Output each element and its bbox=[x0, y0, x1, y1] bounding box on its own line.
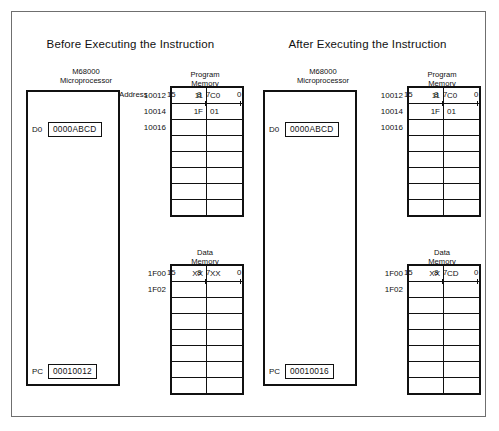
memory-cell-low-byte bbox=[444, 184, 479, 199]
memory-cell-high-byte bbox=[409, 314, 444, 329]
memory-cell-low-byte bbox=[444, 282, 479, 297]
memory-cell-high-byte bbox=[172, 168, 207, 183]
memory-cell-low-byte bbox=[444, 378, 479, 393]
memory-cell-high-byte bbox=[172, 314, 207, 329]
memory-cell-low-byte bbox=[207, 152, 242, 167]
memory-cell-low-byte bbox=[444, 120, 479, 135]
memory-cell-high-byte bbox=[409, 184, 444, 199]
memory-cell-low-byte: 01 bbox=[207, 104, 242, 119]
memory-row: 1F00XXCD bbox=[409, 266, 479, 282]
memory-cell-high-byte bbox=[172, 200, 207, 215]
memory-row: 100141F01 bbox=[409, 104, 479, 120]
memory-cell-high-byte bbox=[172, 152, 207, 167]
memory-cell-low-byte bbox=[207, 330, 242, 345]
cpu-label-before: M68000 Microprocessor bbox=[26, 67, 146, 86]
memory-row-address: 10016 bbox=[381, 120, 403, 135]
memory-cell-high-byte bbox=[409, 346, 444, 361]
panel-title-after: After Executing the Instruction bbox=[249, 38, 486, 50]
register-d0-value: 0000ABCD bbox=[285, 122, 339, 137]
memory-cell-high-byte bbox=[409, 282, 444, 297]
memory-cell-high-byte bbox=[409, 330, 444, 345]
memory-cell-low-byte bbox=[444, 200, 479, 215]
cpu-label-line2: Microprocessor bbox=[263, 76, 383, 85]
memory-cell-low-byte: C0 bbox=[207, 88, 242, 103]
memory-cell-low-byte: C0 bbox=[444, 88, 479, 103]
register-pc-name: PC bbox=[269, 367, 285, 376]
figure-frame: Before Executing the Instruction M68000 … bbox=[11, 11, 486, 417]
memory-row-address: 1F00 bbox=[148, 266, 166, 281]
memory-cell-low-byte bbox=[207, 378, 242, 393]
memory-row: 1001211C0 bbox=[409, 88, 479, 104]
memory-cell-low-byte bbox=[444, 362, 479, 377]
memory-cell-low-byte bbox=[207, 314, 242, 329]
memory-cell-low-byte bbox=[444, 298, 479, 313]
memory-cell-high-byte bbox=[172, 378, 207, 393]
register-pc-after: PC 00010016 bbox=[269, 364, 334, 379]
memory-row-address: 10016 bbox=[144, 120, 166, 135]
memory-row-address: 1F02 bbox=[148, 282, 166, 297]
memory-cell-high-byte bbox=[172, 298, 207, 313]
program-memory-grid: 1001211C0100141F0110016 bbox=[170, 86, 244, 217]
memory-row bbox=[172, 346, 242, 362]
memory-row: 10016 bbox=[409, 120, 479, 136]
data-memory-title-line1: Data bbox=[166, 248, 244, 257]
data-memory-grid: 1F00XXCD1F02 bbox=[407, 264, 481, 395]
cpu-label-after: M68000 Microprocessor bbox=[263, 67, 383, 86]
memory-row-address: 1F02 bbox=[385, 282, 403, 297]
memory-row: 1F02 bbox=[409, 282, 479, 298]
memory-row bbox=[409, 152, 479, 168]
memory-cell-high-byte: 11 bbox=[409, 88, 444, 103]
memory-row-address: 1F00 bbox=[385, 266, 403, 281]
panel-after: After Executing the Instruction M68000 M… bbox=[249, 12, 486, 418]
memory-cell-low-byte bbox=[444, 136, 479, 151]
memory-cell-low-byte bbox=[207, 346, 242, 361]
memory-cell-high-byte bbox=[409, 152, 444, 167]
memory-cell-high-byte bbox=[172, 346, 207, 361]
memory-cell-high-byte: 11 bbox=[172, 88, 207, 103]
register-d0-name: D0 bbox=[32, 125, 48, 134]
memory-row bbox=[172, 184, 242, 200]
memory-cell-high-byte bbox=[409, 136, 444, 151]
memory-cell-low-byte bbox=[444, 168, 479, 183]
memory-row-address: 10012 bbox=[381, 88, 403, 103]
memory-row bbox=[409, 362, 479, 378]
memory-cell-low-byte bbox=[207, 184, 242, 199]
memory-cell-low-byte: CD bbox=[444, 266, 479, 281]
memory-row bbox=[409, 298, 479, 314]
memory-row bbox=[409, 136, 479, 152]
memory-cell-low-byte bbox=[444, 346, 479, 361]
program-memory-title-line1: Program bbox=[403, 70, 481, 79]
cpu-label-line1: M68000 bbox=[26, 67, 146, 76]
memory-cell-low-byte bbox=[207, 136, 242, 151]
register-d0-name: D0 bbox=[269, 125, 285, 134]
memory-row-address: 10012 bbox=[144, 88, 166, 103]
memory-row bbox=[172, 314, 242, 330]
memory-row bbox=[172, 200, 242, 215]
register-d0-value: 0000ABCD bbox=[48, 122, 102, 137]
memory-row bbox=[172, 378, 242, 393]
cpu-label-line1: M68000 bbox=[263, 67, 383, 76]
memory-cell-high-byte: XX bbox=[409, 266, 444, 281]
memory-row bbox=[172, 136, 242, 152]
memory-cell-low-byte bbox=[207, 200, 242, 215]
memory-row-address: 10014 bbox=[144, 104, 166, 119]
memory-cell-low-byte bbox=[207, 168, 242, 183]
memory-cell-high-byte bbox=[409, 168, 444, 183]
memory-row: 1001211C0 bbox=[172, 88, 242, 104]
program-memory-title-line1: Program bbox=[166, 70, 244, 79]
register-pc-name: PC bbox=[32, 367, 48, 376]
memory-row bbox=[409, 200, 479, 215]
memory-row bbox=[172, 330, 242, 346]
memory-cell-high-byte bbox=[172, 120, 207, 135]
memory-row bbox=[409, 314, 479, 330]
memory-row bbox=[409, 346, 479, 362]
memory-cell-high-byte bbox=[409, 298, 444, 313]
register-d0-before: D0 0000ABCD bbox=[32, 122, 102, 137]
memory-cell-low-byte bbox=[444, 152, 479, 167]
memory-cell-high-byte: 1F bbox=[409, 104, 444, 119]
memory-row bbox=[409, 330, 479, 346]
memory-row bbox=[409, 168, 479, 184]
memory-row: 100141F01 bbox=[172, 104, 242, 120]
memory-row: 1F02 bbox=[172, 282, 242, 298]
memory-cell-low-byte bbox=[207, 298, 242, 313]
